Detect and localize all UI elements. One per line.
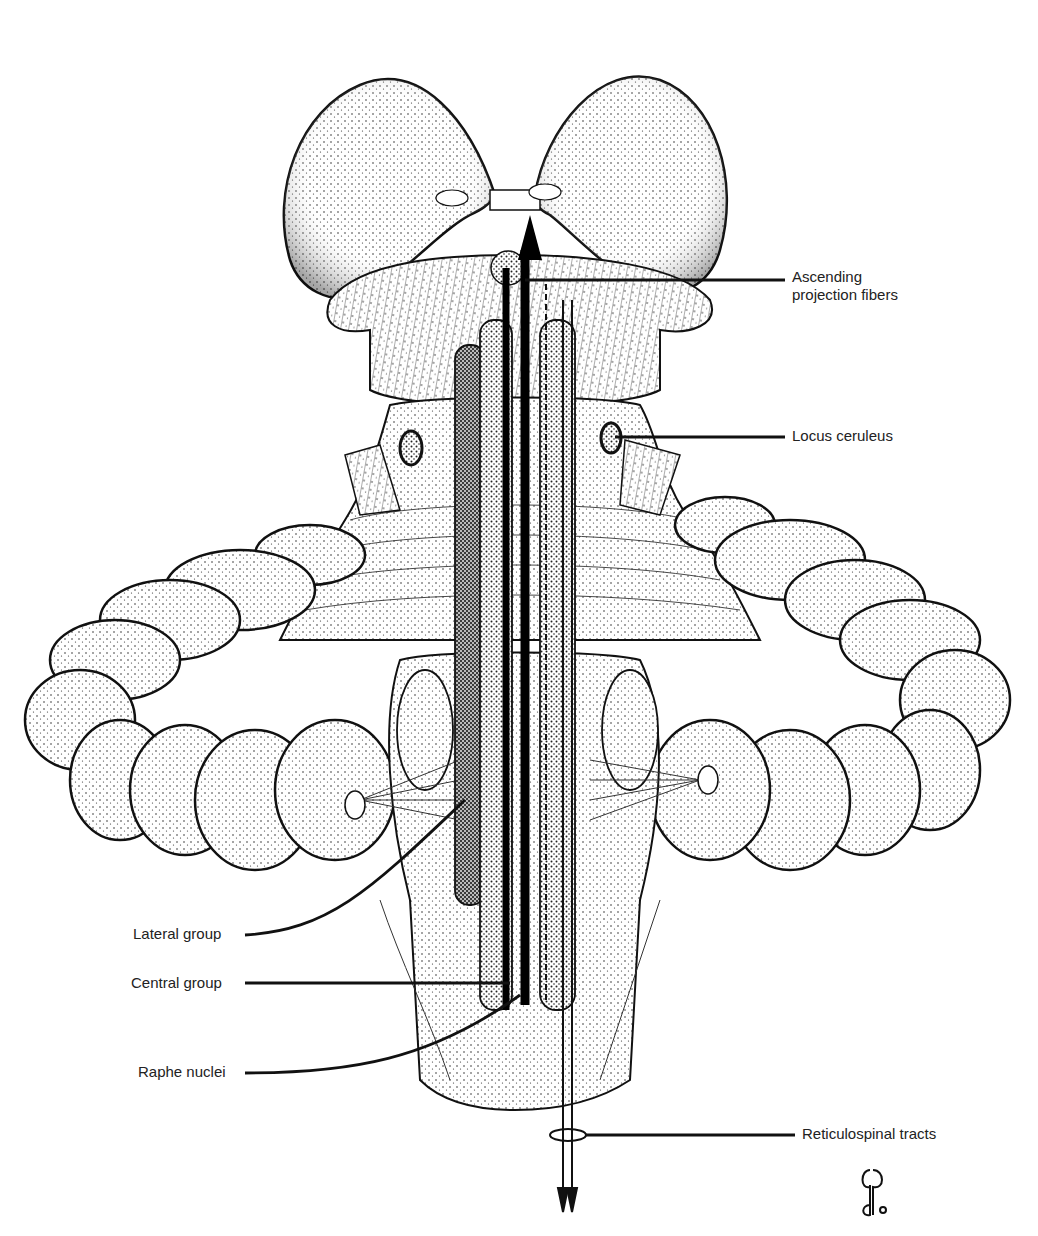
medulla	[345, 653, 718, 1111]
artist-monogram-icon	[855, 1165, 895, 1220]
brainstem-illustration	[0, 0, 1038, 1236]
label-ascending-projection-fibers: Ascending projection fibers	[792, 268, 898, 304]
label-reticulospinal-tracts: Reticulospinal tracts	[802, 1125, 936, 1143]
label-central-group: Central group	[131, 974, 222, 992]
locus-ceruleus-left	[400, 431, 422, 465]
cerebellum-left	[25, 525, 395, 870]
midbrain	[327, 251, 712, 405]
label-lateral-group: Lateral group	[133, 925, 221, 943]
label-locus-ceruleus: Locus ceruleus	[792, 427, 893, 445]
label-raphe-nuclei: Raphe nuclei	[138, 1063, 226, 1081]
